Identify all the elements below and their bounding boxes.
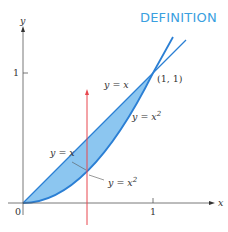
area-between-curves-diagram: y x 0 1 1 (1, 1) y = x y = x2 y = x y = … xyxy=(0,0,228,232)
y-tick-label: 1 xyxy=(13,67,19,78)
label-upper-y-equals-x: y = x xyxy=(103,79,129,90)
label-upper-y-equals-x-squared: y = x2 xyxy=(131,110,162,122)
x-tick-label: 1 xyxy=(150,206,156,217)
x-axis-label: x xyxy=(218,197,224,208)
y-axis-label: y xyxy=(19,15,26,26)
x-axis-arrow-icon xyxy=(209,201,215,205)
line-y-equals-x xyxy=(23,40,186,203)
leader-line-y-equals-x-squared xyxy=(89,175,104,180)
intersection-point-label: (1, 1) xyxy=(157,73,183,84)
red-arrow-icon xyxy=(85,89,89,95)
label-lower-y-equals-x-squared: y = x2 xyxy=(107,176,138,188)
y-axis-arrow-icon xyxy=(21,26,25,32)
label-left-y-equals-x: y = x xyxy=(49,147,75,158)
origin-label: 0 xyxy=(15,206,21,217)
